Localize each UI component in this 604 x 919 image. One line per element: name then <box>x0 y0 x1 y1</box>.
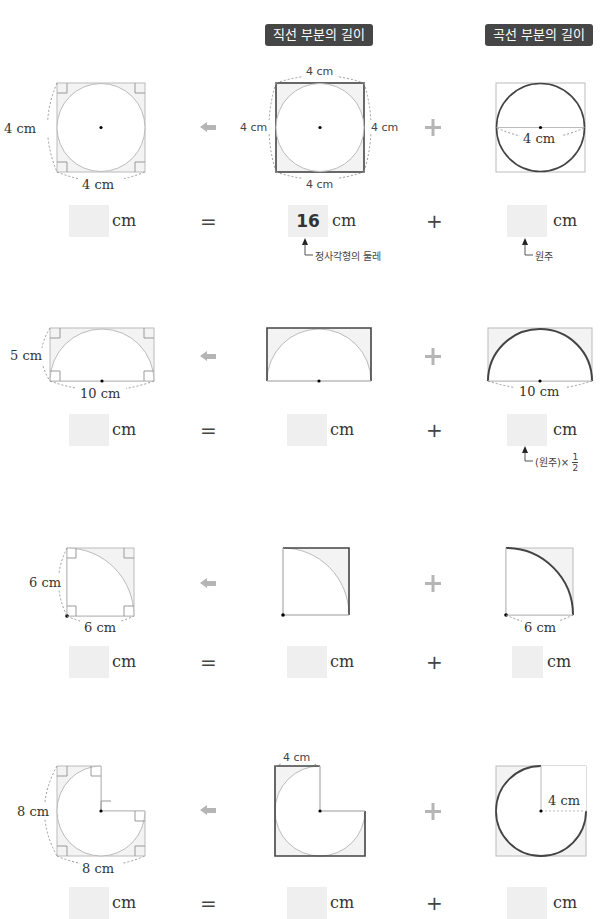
row2-curved-note: (원주)× 1 2 <box>535 452 578 473</box>
plus-sign: + <box>426 414 443 446</box>
row1-curved-note: 원주 <box>535 248 553 263</box>
row2-curved-note-arrow <box>522 446 533 461</box>
left-arrow-icon <box>200 351 216 361</box>
row1-right-figure: 4 cm <box>496 83 585 172</box>
row1-right-diameter-label: 4 cm <box>523 131 555 146</box>
row2-right-figure: 10 cm <box>488 328 592 399</box>
row2-left-bottom-label: 10 cm <box>80 386 120 401</box>
equals-sign: = <box>200 887 217 919</box>
row1-curved-answer-box[interactable] <box>507 205 547 237</box>
row2-total-unit: cm <box>112 414 136 446</box>
row3-straight-unit: cm <box>330 646 354 678</box>
row3-curved-answer-box[interactable] <box>512 646 543 678</box>
row2-straight-unit: cm <box>330 414 354 446</box>
plus-icon <box>425 803 441 820</box>
row4-curved-unit: cm <box>553 887 577 919</box>
equals-sign: = <box>200 205 217 237</box>
fraction-denominator: 2 <box>572 463 578 473</box>
row2-mid-figure <box>267 328 371 383</box>
equals-sign: = <box>200 414 217 446</box>
row3-total-unit: cm <box>112 646 136 678</box>
plus-sign: + <box>426 646 443 678</box>
row3-curved-unit: cm <box>547 646 571 678</box>
row4-straight-unit: cm <box>330 887 354 919</box>
row1-mid-figure: 4 cm 4 cm 4 cm 4 cm <box>240 64 404 191</box>
row3-mid-figure <box>281 548 349 617</box>
row4-right-figure: 4 cm <box>496 766 586 856</box>
row4-total-answer-box[interactable] <box>69 887 109 919</box>
row2-total-answer-box[interactable] <box>69 414 109 446</box>
row1-curved-unit: cm <box>553 205 577 237</box>
row4-left-bottom-label: 8 cm <box>82 861 114 876</box>
row1-straight-note: 정사각형의 둘레 <box>315 248 381 263</box>
row3-right-figure: 6 cm <box>504 548 573 635</box>
row1-straight-value: 16 <box>288 205 328 237</box>
left-arrow-icon <box>200 578 216 588</box>
left-arrow-icon <box>200 805 216 815</box>
row3-left-bottom-label: 6 cm <box>84 620 116 635</box>
plus-icon <box>425 575 441 592</box>
row4-total-unit: cm <box>112 887 136 919</box>
row1-mid-left-label: 4 cm <box>240 121 267 134</box>
fraction-numerator: 1 <box>572 452 578 463</box>
row2-straight-answer-box[interactable] <box>287 414 327 446</box>
row4-right-radius-label: 4 cm <box>548 793 580 808</box>
row1-total-unit: cm <box>112 205 136 237</box>
row3-left-side-label: 6 cm <box>29 575 61 590</box>
row1-total-answer-box[interactable] <box>69 205 109 237</box>
left-arrow-icon <box>200 122 216 132</box>
row4-mid-top-label: 4 cm <box>283 751 310 764</box>
row1-straight-unit: cm <box>332 205 356 237</box>
fraction: 1 2 <box>572 452 578 473</box>
row2-curved-note-prefix: (원주)× <box>535 457 569 468</box>
row3-left-figure: 6 cm 6 cm <box>28 548 134 635</box>
row3-total-answer-box[interactable] <box>69 646 109 678</box>
row1-mid-bottom-label: 4 cm <box>306 178 333 191</box>
plus-sign: + <box>426 205 443 237</box>
equals-sign: = <box>200 646 217 678</box>
plus-icon <box>425 119 441 136</box>
row3-straight-answer-box[interactable] <box>287 646 327 678</box>
row1-mid-right-label: 4 cm <box>371 121 398 134</box>
row4-left-side-label: 8 cm <box>17 804 49 819</box>
row2-left-side-label: 5 cm <box>10 348 42 363</box>
row1-straight-note-arrow <box>302 238 313 255</box>
row1-mid-top-label: 4 cm <box>306 65 333 78</box>
row4-mid-figure: 4 cm <box>275 751 365 856</box>
row3-right-radius-label: 6 cm <box>524 620 556 635</box>
row4-left-figure: 8 cm 8 cm <box>16 766 145 876</box>
plus-sign: + <box>426 887 443 919</box>
row4-straight-answer-box[interactable] <box>287 887 327 919</box>
row1-curved-note-arrow <box>522 238 533 255</box>
plus-icon <box>425 348 441 365</box>
row1-left-bottom-label: 4 cm <box>82 177 114 192</box>
row1-left-side-label: 4 cm <box>4 121 36 136</box>
row2-left-figure: 5 cm 10 cm <box>8 328 154 401</box>
row1-left-figure: 4 cm 4 cm <box>2 83 145 192</box>
row4-curved-answer-box[interactable] <box>507 887 547 919</box>
row2-right-diameter-label: 10 cm <box>519 384 559 399</box>
row2-curved-answer-box[interactable] <box>507 414 547 446</box>
row2-curved-unit: cm <box>553 414 577 446</box>
